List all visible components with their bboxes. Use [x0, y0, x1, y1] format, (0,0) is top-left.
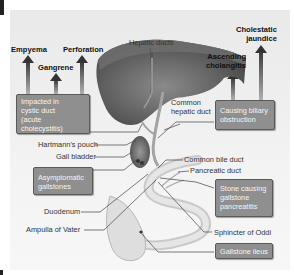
- arrow-empyema: [22, 55, 34, 94]
- box-asymptomatic-gallstones: Asymptomatic gallstones: [33, 167, 93, 195]
- arrow-cholestatic-jaundice: [255, 45, 267, 100]
- label-gall-bladder: Gall bladder: [56, 153, 96, 161]
- label-empyema: Empyema: [11, 46, 47, 54]
- label-cholestatic-jaundice: Cholestatic jaundice: [236, 25, 277, 43]
- label-duodenum: Duodenum: [44, 208, 80, 216]
- box-causing-biliary-obstruction: Causing biliary obstruction: [215, 100, 275, 130]
- label-perforation: Perforation: [63, 46, 104, 54]
- label-common-hepatic-duct: Common hepatic duct: [171, 98, 211, 116]
- label-ascending-cholangitis: Ascending cholangitis: [206, 52, 246, 70]
- label-hartmanns-pouch: Hartmann's pouch: [38, 141, 98, 149]
- label-pancreatic-duct: Pancreatic duct: [190, 167, 241, 175]
- label-sphincter-of-oddi: Sphincter of Oddi: [214, 229, 271, 237]
- label-ampulla-of-vater: Ampulla of Vater: [26, 226, 80, 234]
- box-stone-causing-pancreatitis: Stone causing gallstone pancreatitis: [215, 179, 273, 217]
- box-gallstone-ileus: Gallstone ileus: [215, 243, 273, 259]
- label-gangrene: Gangrene: [38, 64, 73, 72]
- box-impacted-cystic-duct: Impacted in cystic duct (acute cholecyst…: [16, 94, 90, 134]
- label-common-bile-duct: Common bile duct: [184, 156, 244, 164]
- label-hepatic-ducts: Hepatic ducts: [129, 39, 174, 47]
- arrow-gangrene: [50, 73, 62, 94]
- arrow-perforation: [76, 55, 88, 94]
